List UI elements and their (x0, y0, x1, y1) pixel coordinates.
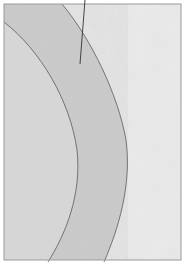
cross-section-diagram (0, 0, 186, 267)
